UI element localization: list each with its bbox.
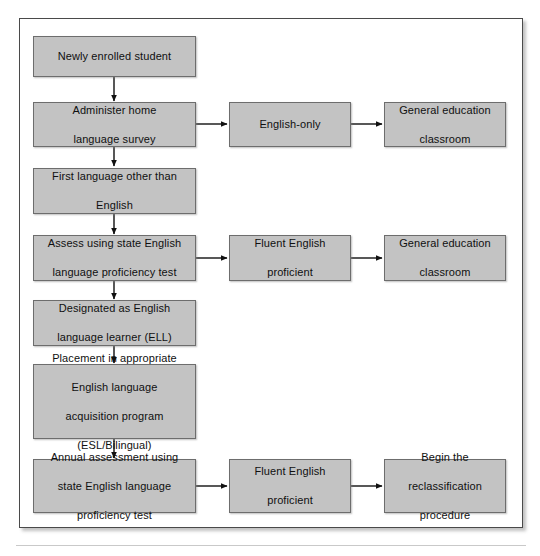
node-fluent-english-proficient-2[interactable]: Fluent English proficient <box>229 459 351 513</box>
node-label: English-only <box>234 117 346 132</box>
node-general-education-classroom-2[interactable]: General education classroom <box>384 235 506 281</box>
node-label-line-1: Placement in appropriate <box>38 351 191 366</box>
node-label-line-3: procedure <box>389 508 501 523</box>
node-assess-using-state-test[interactable]: Assess using state English language prof… <box>33 235 196 281</box>
node-label-line-2: language learner (ELL) <box>38 330 191 345</box>
node-label-line-1: General education <box>389 103 501 118</box>
node-label-line-1: Annual assessment using <box>38 450 191 465</box>
node-label-line-1: Fluent English <box>234 464 346 479</box>
node-first-language-other-than-english[interactable]: First language other than English <box>33 168 196 214</box>
node-label: Fluent English proficient <box>234 236 346 280</box>
node-label: General education classroom <box>389 236 501 280</box>
node-label-line-1: First language other than <box>38 169 191 184</box>
node-label-line-2: classroom <box>389 265 501 280</box>
node-english-only[interactable]: English-only <box>229 102 351 147</box>
node-begin-reclassification[interactable]: Begin the reclassification procedure <box>384 459 506 513</box>
node-label: First language other than English <box>38 169 191 213</box>
node-label-line-2: proficient <box>234 265 346 280</box>
node-label-line-2: classroom <box>389 132 501 147</box>
node-label: Annual assessment using state English la… <box>38 450 191 523</box>
node-label-line-2: reclassification <box>389 479 501 494</box>
node-designated-as-ell[interactable]: Designated as English language learner (… <box>33 300 196 346</box>
node-label-line-2: English language <box>38 380 191 395</box>
node-placement-in-program[interactable]: Placement in appropriate English languag… <box>33 364 196 439</box>
page-separator-rule <box>16 545 526 546</box>
node-label-line-3: acquisition program <box>38 409 191 424</box>
node-label-line-3: proficiency test <box>38 508 191 523</box>
node-label-line-1: Administer home <box>38 103 191 118</box>
node-label-line-1: Fluent English <box>234 236 346 251</box>
node-label-line-2: language survey <box>38 132 191 147</box>
node-label: Designated as English language learner (… <box>38 301 191 345</box>
node-label-line-1: Assess using state English <box>38 236 191 251</box>
node-label: Begin the reclassification procedure <box>389 450 501 523</box>
node-label-line-2: language proficiency test <box>38 265 191 280</box>
node-label: General education classroom <box>389 103 501 147</box>
node-label-line-2: state English language <box>38 479 191 494</box>
node-fluent-english-proficient-1[interactable]: Fluent English proficient <box>229 235 351 281</box>
node-label-line-1: Designated as English <box>38 301 191 316</box>
node-label: Administer home language survey <box>38 103 191 147</box>
node-label-line-2: English <box>38 198 191 213</box>
node-annual-assessment[interactable]: Annual assessment using state English la… <box>33 459 196 513</box>
node-administer-home-language-survey[interactable]: Administer home language survey <box>33 102 196 147</box>
node-label: Placement in appropriate English languag… <box>38 351 191 453</box>
node-label: Fluent English proficient <box>234 464 346 508</box>
flowchart-canvas: Newly enrolled student Administer home l… <box>0 0 540 556</box>
node-general-education-classroom-1[interactable]: General education classroom <box>384 102 506 147</box>
node-label: Assess using state English language prof… <box>38 236 191 280</box>
figure-root: Newly enrolled student Administer home l… <box>0 0 540 556</box>
node-label-line-2: proficient <box>234 493 346 508</box>
node-label-line-1: General education <box>389 236 501 251</box>
node-label: Newly enrolled student <box>38 49 191 64</box>
node-label-line-1: Begin the <box>389 450 501 465</box>
node-newly-enrolled-student[interactable]: Newly enrolled student <box>33 36 196 77</box>
